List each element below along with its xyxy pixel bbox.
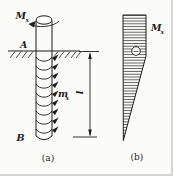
- figure-canvas: M x A m x B l − M x (a) (b): [0, 0, 173, 176]
- dimension-arrow-up-icon: [88, 52, 92, 59]
- diagram-moment-subscript: x: [160, 28, 165, 35]
- point-b-label: B: [16, 132, 25, 143]
- point-a-label: A: [19, 39, 27, 50]
- torque-diagram-shape: [123, 15, 146, 141]
- pile-top-cap: [36, 16, 52, 24]
- caption-a: (a): [42, 153, 54, 163]
- pile-diagram: [8, 16, 99, 140]
- dimension-arrow-down-icon: [88, 130, 92, 137]
- distributed-torque-rings: [36, 55, 59, 134]
- negative-sign-label: −: [133, 47, 139, 56]
- length-label: l: [74, 90, 85, 94]
- torque-diagram: −: [123, 15, 146, 141]
- ground-hatching-right: [53, 52, 81, 59]
- distributed-moment-subscript: x: [65, 94, 70, 101]
- applied-moment-subscript: x: [25, 16, 30, 23]
- pile-bottom-tip: [36, 136, 52, 140]
- caption-b: (b): [131, 152, 144, 162]
- figure-container: M x A m x B l − M x (a) (b): [0, 0, 173, 176]
- ground-hatching-left: [10, 52, 33, 59]
